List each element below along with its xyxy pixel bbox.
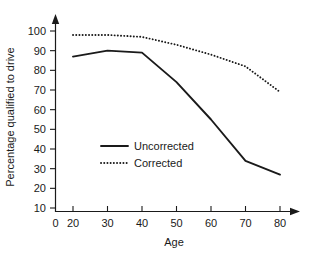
x-axis-title: Age <box>164 236 184 248</box>
x-axis-ticks: 020304050607080 <box>52 206 286 229</box>
data-series-group <box>73 35 280 175</box>
chart-figure: 102030405060708090100 020304050607080 Ag… <box>0 0 310 263</box>
y-tick-label: 80 <box>34 64 46 76</box>
legend-label-corrected: Corrected <box>134 157 182 169</box>
y-tick-label: 90 <box>34 45 46 57</box>
y-tick-label: 50 <box>34 123 46 135</box>
x-tick-label: 60 <box>205 217 217 229</box>
y-tick-label: 40 <box>34 143 46 155</box>
chart-legend: UncorrectedCorrected <box>101 140 194 169</box>
y-tick-label: 10 <box>34 202 46 214</box>
x-tick-label: 80 <box>274 217 286 229</box>
y-tick-label: 60 <box>34 104 46 116</box>
x-tick-label: 30 <box>101 217 113 229</box>
y-tick-label: 100 <box>28 25 46 37</box>
y-axis-title: Percentage qualified to drive <box>4 47 16 186</box>
x-tick-label: 40 <box>136 217 148 229</box>
axes <box>52 14 300 215</box>
x-tick-label: 70 <box>239 217 251 229</box>
y-axis-ticks: 102030405060708090100 <box>28 25 56 214</box>
y-axis-arrowhead <box>52 14 59 24</box>
series-line-uncorrected <box>73 51 280 175</box>
x-tick-label: 20 <box>67 217 79 229</box>
x-axis-arrowhead <box>290 208 300 215</box>
x-tick-label: 50 <box>170 217 182 229</box>
y-tick-label: 70 <box>34 84 46 96</box>
y-tick-label: 20 <box>34 182 46 194</box>
legend-label-uncorrected: Uncorrected <box>134 140 194 152</box>
y-tick-label: 30 <box>34 163 46 175</box>
line-chart: 102030405060708090100 020304050607080 Ag… <box>0 0 310 263</box>
x-tick-label: 0 <box>52 217 58 229</box>
